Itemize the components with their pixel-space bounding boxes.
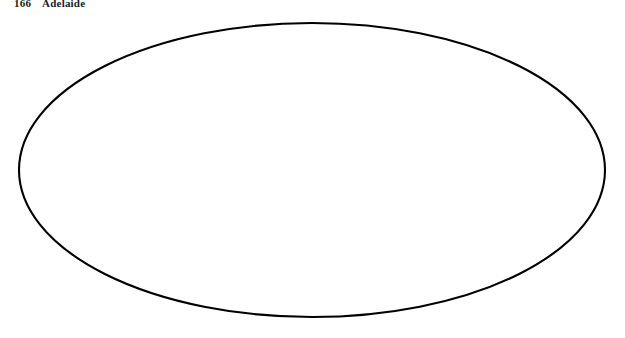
map-oval-border <box>19 23 605 317</box>
world-map-svg: 30 60 90 120 150 60 90 120 30 60 90 120 … <box>0 0 625 338</box>
world-map-figure: 30 60 90 120 150 60 90 120 30 60 90 120 … <box>0 0 625 338</box>
atlas-page: 166 Adelaide <box>0 0 625 338</box>
